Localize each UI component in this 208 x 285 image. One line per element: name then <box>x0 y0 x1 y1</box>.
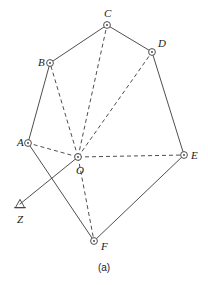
vertex-center-dot-o <box>77 156 79 158</box>
survey-line-c-d <box>107 25 152 52</box>
vertex-center-dot-a <box>27 142 29 144</box>
radial-sight-line-o-b <box>50 63 78 157</box>
vertex-center-dot-f <box>93 240 95 242</box>
vertex-label-a: A <box>17 137 24 148</box>
vertex-label-e: E <box>191 150 198 161</box>
survey-line-a-b <box>28 63 50 143</box>
vertex-center-dot-b <box>49 62 51 64</box>
vertex-label-b: B <box>38 57 45 68</box>
vertex-label-o: O <box>76 165 84 176</box>
vertex-label-c: C <box>104 8 111 19</box>
survey-line-z-o <box>20 157 78 204</box>
radial-sight-line-o-e <box>78 155 184 157</box>
radial-sight-line-o-d <box>78 52 152 157</box>
vertex-center-dot-d <box>151 51 153 53</box>
survey-line-b-c <box>50 25 107 63</box>
survey-line-f-a <box>28 143 94 241</box>
dashed-edge-group <box>28 25 184 241</box>
figure-caption: (a) <box>0 262 208 273</box>
vertex-label-f: F <box>101 241 108 252</box>
vertex-center-dot-c <box>106 24 108 26</box>
vertex-label-z: Z <box>17 214 23 225</box>
survey-line-e-f <box>94 155 184 241</box>
vertex-center-dot-e <box>183 154 185 156</box>
vertex-label-d: D <box>158 38 166 49</box>
figure-container: ABCDEFOZ (a) <box>0 0 208 285</box>
survey-line-d-e <box>152 52 184 155</box>
